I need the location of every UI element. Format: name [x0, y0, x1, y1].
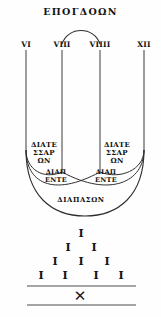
label-line: ΕΝΤΕ: [95, 177, 117, 185]
numeral-xii: XII: [137, 40, 150, 49]
x-symbol: ✕: [74, 289, 87, 304]
tally-mark: I: [52, 256, 57, 267]
label-diatessaron-right: ΔΙΑΤΕ ΣΣΑΡ ΩΝ: [104, 141, 130, 166]
diagram-title: ΕΠΟΓΔΟΩΝ: [0, 6, 161, 17]
tally-mark: I: [78, 256, 83, 267]
epogdoon-musical-interval-diagram: ΕΠΟΓΔΟΩΝ VI VIII VIIII XII ΔΙΑΤΕ ΣΣΑΡ ΩΝ…: [0, 0, 161, 317]
label-diapente-left: ΔΙΑΠ ΕΝΤΕ: [45, 169, 67, 184]
tally-mark: I: [38, 270, 43, 281]
numeral-viiii: VIIII: [90, 40, 111, 49]
tally-mark: I: [118, 270, 123, 281]
label-diapente-right: ΔΙΑΠ ΕΝΤΕ: [95, 169, 117, 184]
label-line: ΕΝΤΕ: [45, 177, 67, 185]
numeral-vi: VI: [21, 40, 31, 49]
tally-mark: I: [91, 242, 96, 253]
label-diapason: ΔΙΑΠΑΣΩΝ: [57, 196, 104, 204]
tally-mark: I: [62, 270, 67, 281]
tally-mark: I: [93, 270, 98, 281]
tally-mark: I: [65, 242, 70, 253]
label-line: ΩΝ: [31, 157, 57, 165]
numeral-viii: VIII: [53, 40, 70, 49]
label-line: ΔΙΑΠΑΣΩΝ: [57, 196, 104, 204]
label-diatessaron-left: ΔΙΑΤΕ ΣΣΑΡ ΩΝ: [31, 141, 57, 166]
tally-mark: I: [78, 228, 83, 239]
label-line: ΩΝ: [104, 157, 130, 165]
tally-mark: I: [104, 256, 109, 267]
